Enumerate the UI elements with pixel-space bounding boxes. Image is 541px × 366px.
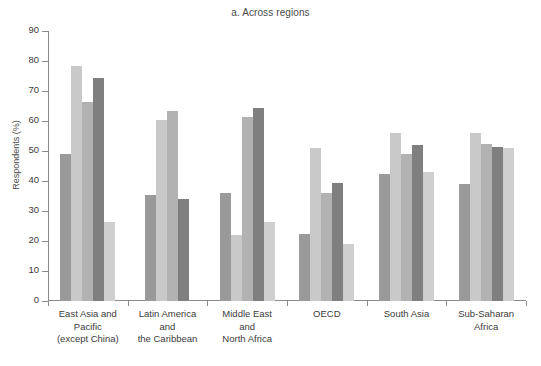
bar-group xyxy=(48,31,128,301)
x-category-label-line: South Asia xyxy=(367,308,447,321)
chart-figure: a. Across regions Respondents (%) 010203… xyxy=(0,0,541,366)
bar xyxy=(242,117,253,302)
x-tick-mark xyxy=(128,301,129,306)
x-category-label: Latin Americaandthe Caribbean xyxy=(128,308,208,346)
bar xyxy=(220,193,231,301)
x-category-label-line: OECD xyxy=(287,308,367,321)
bar xyxy=(93,78,104,302)
bar xyxy=(299,234,310,302)
x-tick-mark xyxy=(48,301,49,306)
x-category-label: OECD xyxy=(287,308,367,321)
bar xyxy=(470,133,481,301)
x-category-label: East Asia andPacific(except China) xyxy=(48,308,128,346)
x-category-label-line: the Caribbean xyxy=(128,333,208,346)
y-axis-label: Respondents (%) xyxy=(11,95,21,215)
x-category-label-line: and xyxy=(207,321,287,334)
x-tick-mark xyxy=(287,301,288,306)
bar xyxy=(401,154,412,301)
y-tick-label: 20 xyxy=(28,234,39,245)
x-tick-mark xyxy=(446,301,447,306)
y-tick-label: 60 xyxy=(28,114,39,125)
y-tick-label: 0 xyxy=(34,294,39,305)
y-tick-label: 80 xyxy=(28,54,39,65)
bar xyxy=(481,144,492,302)
y-tick-label: 70 xyxy=(28,84,39,95)
bar xyxy=(167,111,178,302)
x-category-label-line: Latin America xyxy=(128,308,208,321)
x-category-label-line: and xyxy=(128,321,208,334)
x-category-label: South Asia xyxy=(367,308,447,321)
x-tick-mark xyxy=(367,301,368,306)
x-category-label-line: Africa xyxy=(446,321,526,334)
bar-group xyxy=(367,31,447,301)
bar xyxy=(82,102,93,302)
y-tick-label: 30 xyxy=(28,204,39,215)
bar xyxy=(503,148,514,301)
chart-title: a. Across regions xyxy=(0,7,541,18)
x-tick-mark xyxy=(207,301,208,306)
x-category-label-line: Pacific xyxy=(48,321,128,334)
bar-group xyxy=(287,31,367,301)
x-category-label: Sub-SaharanAfrica xyxy=(446,308,526,333)
y-tick-label: 50 xyxy=(28,144,39,155)
bar xyxy=(156,120,167,302)
bar xyxy=(264,222,275,302)
plot-area: 0102030405060708090 xyxy=(48,31,526,301)
y-tick-label: 90 xyxy=(28,24,39,35)
y-tick-label: 40 xyxy=(28,174,39,185)
bar xyxy=(60,154,71,301)
bar-group xyxy=(207,31,287,301)
bar xyxy=(379,174,390,302)
x-category-label-line: East Asia and xyxy=(48,308,128,321)
bar-group xyxy=(446,31,526,301)
bar xyxy=(459,184,470,301)
bar-group xyxy=(128,31,208,301)
bar xyxy=(390,133,401,301)
bar xyxy=(104,222,115,302)
x-category-label-line: (except China) xyxy=(48,333,128,346)
bar xyxy=(423,172,434,301)
bar xyxy=(412,145,423,301)
x-category-label-line: North Africa xyxy=(207,333,287,346)
bar xyxy=(71,66,82,302)
bar xyxy=(332,183,343,302)
bar xyxy=(178,199,189,301)
bar xyxy=(310,148,321,301)
bar xyxy=(231,235,242,301)
x-category-label-line: Middle East xyxy=(207,308,287,321)
bar xyxy=(343,244,354,301)
bar xyxy=(253,108,264,302)
y-tick-label: 10 xyxy=(28,264,39,275)
bar xyxy=(321,193,332,301)
x-category-label-line: Sub-Saharan xyxy=(446,308,526,321)
x-category-label: Middle EastandNorth Africa xyxy=(207,308,287,346)
x-tick-mark xyxy=(526,301,527,306)
bar xyxy=(145,195,156,302)
bar xyxy=(492,147,503,302)
